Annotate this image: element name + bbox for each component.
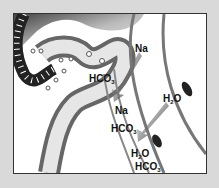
label-na-1: Na (135, 44, 148, 54)
label-h2o-1: H2O (163, 94, 181, 105)
label-h2o-2: H2O (131, 149, 149, 160)
label-hco3-3: HCO3 (135, 162, 161, 173)
red-cell (180, 80, 195, 98)
label-hco3-2: HCO3 (111, 124, 137, 135)
label-na-2: Na (115, 106, 128, 116)
diagram-frame: Na HCO3 Na H2O HCO3 H2O HCO3 (13, 13, 207, 174)
label-hco3-1: HCO3 (89, 74, 115, 85)
